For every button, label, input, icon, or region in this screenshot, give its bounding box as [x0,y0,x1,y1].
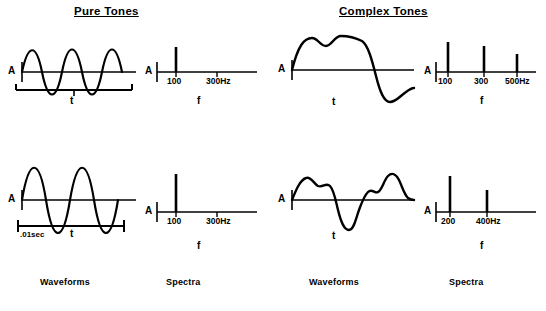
panel-complex-spectrum-1: A 100 300 500Hz f [424,26,542,110]
panel-pure-waveform-1: A t [8,26,140,110]
complex-waveform-1-x-label: t [332,96,335,107]
footer-waveforms-left: Waveforms [40,277,90,287]
complex-spectrum-2-plot [424,160,542,244]
pure-waveform-1-x-label: t [70,95,73,106]
complex-waveform-1-y-label: A [278,63,285,74]
pure-spectrum-2-y-label: A [145,205,152,216]
complex-waveform-2-x-label: t [332,230,335,241]
complex-spectrum-1-x-label: f [480,95,483,106]
complex-waveform-2-plot [278,152,418,252]
pure-spectrum-1-x-label: f [197,95,200,106]
panel-complex-waveform-1: A t [278,22,418,114]
panel-pure-spectrum-1: A 100 300Hz f [145,26,260,110]
complex-spectrum-1-tick-500hz: 500Hz [505,76,530,86]
header-pure-tones: Pure Tones [74,5,139,17]
footer-spectra-right: Spectra [449,277,483,287]
complex-spectrum-1-y-label: A [424,65,431,76]
panel-complex-spectrum-2: A 200 400Hz f [424,160,542,244]
pure-waveform-2-y-label: A [8,193,15,204]
complex-spectrum-2-x-label: f [480,240,483,251]
complex-waveform-trace [292,36,414,102]
footer-waveforms-right: Waveforms [309,277,359,287]
pure-spectrum-2-plot [145,160,260,244]
complex-spectrum-2-tick-400hz: 400Hz [476,216,501,226]
complex-waveform-1-plot [278,22,418,114]
pure-spectrum-1-y-label: A [145,65,152,76]
pure-spectrum-1-plot [145,26,260,110]
pure-spectrum-1-tick-100: 100 [167,76,181,86]
complex-waveform-2-y-label: A [278,193,285,204]
pure-waveform-1-y-label: A [8,65,15,76]
complex-spectrum-2-y-label: A [424,205,431,216]
complex-spectrum-1-tick-100: 100 [438,76,452,86]
complex-waveform-trace [292,174,414,230]
complex-spectrum-1-tick-300: 300 [474,76,488,86]
pure-waveform-1-plot [8,26,140,110]
footer-spectra-left: Spectra [166,277,200,287]
pure-waveform-2-duration-label: .01sec [20,230,44,239]
pure-spectrum-2-x-label: f [197,240,200,251]
panel-pure-waveform-2: A .01sec t [8,148,140,248]
pure-spectrum-2-tick-300hz: 300Hz [206,216,231,226]
pure-spectrum-1-tick-300hz: 300Hz [206,76,231,86]
complex-spectrum-2-tick-200: 200 [441,216,455,226]
pure-spectrum-2-tick-100: 100 [167,216,181,226]
pure-waveform-2-x-label: t [70,228,73,239]
header-complex-tones: Complex Tones [339,5,428,17]
figure-canvas: Pure Tones Complex Tones A t [0,0,546,311]
panel-pure-spectrum-2: A 100 300Hz f [145,160,260,244]
panel-complex-waveform-2: A t [278,152,418,252]
